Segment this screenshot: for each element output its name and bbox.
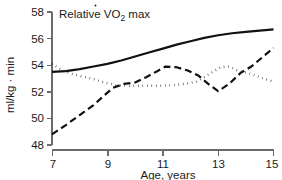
data-series-layer: [52, 29, 274, 134]
series-line-solid: [52, 29, 274, 72]
x-tick-label-7: 7: [50, 158, 56, 170]
title-lead: Relative V: [59, 8, 112, 20]
overdot-icon: [95, 5, 97, 7]
x-tick-marks: [53, 150, 274, 156]
y-tick-labels: 48 50 52 54 56 58: [31, 6, 44, 151]
x-tick-label-15: 15: [266, 158, 279, 170]
plot-title: Relative VO2 max: [59, 8, 150, 23]
y-tick-label-54: 54: [31, 59, 44, 71]
x-tick-label-13: 13: [212, 158, 225, 170]
x-tick-label-9: 9: [105, 158, 111, 170]
plot-title-group: Relative VO2 max: [59, 5, 150, 23]
title-trail: max: [125, 8, 150, 20]
chart-figure: Relative VO2 max 48 50 52 54 56 58 ml/k: [0, 0, 282, 180]
y-tick-label-50: 50: [31, 112, 44, 124]
y-tick-label-52: 52: [31, 86, 44, 98]
vo2-max-line-chart: Relative VO2 max 48 50 52 54 56 58 ml/k: [0, 0, 282, 180]
y-axis: 48 50 52 54 56 58 ml/kg · min: [4, 6, 52, 151]
title-o: O: [111, 8, 120, 20]
y-tick-label-56: 56: [31, 33, 44, 45]
x-axis: 7 9 11 13 15 Age, years: [50, 150, 279, 180]
y-tick-marks: [47, 12, 52, 145]
y-tick-label-58: 58: [31, 6, 44, 18]
series-line-dashed: [52, 48, 274, 134]
y-tick-label-48: 48: [31, 139, 44, 151]
y-axis-title: ml/kg · min: [4, 57, 16, 113]
x-axis-title: Age, years: [141, 169, 196, 180]
